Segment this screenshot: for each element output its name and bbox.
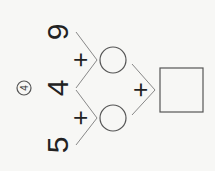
plus-sign-bottom: + <box>65 110 95 125</box>
number-top: 9 <box>41 24 74 41</box>
plus-sign-final: + <box>125 82 155 97</box>
number-bottom: 5 <box>41 137 74 154</box>
plus-sign-top: + <box>65 52 95 67</box>
answer-square[interactable] <box>160 68 203 112</box>
answer-circle-top[interactable] <box>100 47 126 73</box>
svg-text:4: 4 <box>19 85 30 91</box>
addition-tree-diagram: 4 9 4 5 + + + <box>0 0 215 171</box>
number-middle: 4 <box>41 80 74 97</box>
problem-number-badge: 4 <box>17 81 31 95</box>
answer-circle-bottom[interactable] <box>100 105 126 131</box>
